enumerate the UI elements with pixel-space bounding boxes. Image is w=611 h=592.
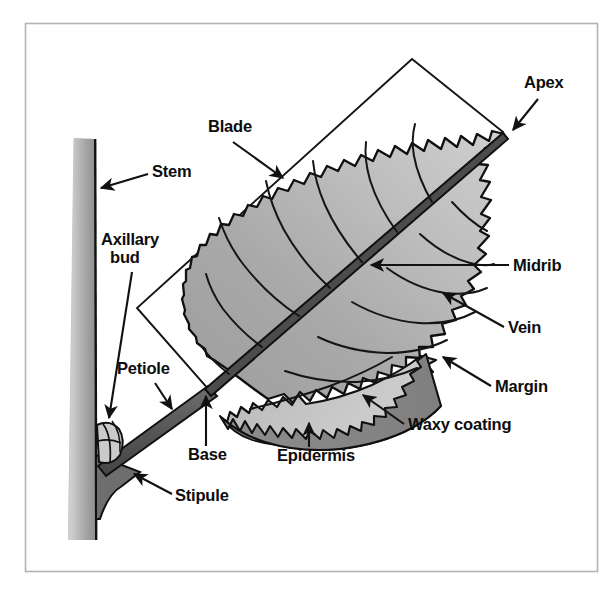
label-base: Base [188,445,227,463]
leaf-diagram-canvas: ApexBladeStemAxillarybudMidribVeinPetiol… [0,0,611,592]
label-margin: Margin [495,377,548,395]
label-petiole: Petiole [117,359,170,377]
label-axillary-bud-1: Axillary [101,230,160,248]
label-epidermis: Epidermis [277,446,355,464]
label-apex: Apex [524,73,565,91]
label-waxy-coating: Waxy coating [408,415,511,433]
label-axillary-bud-2: bud [110,248,140,266]
label-stem: Stem [152,162,192,180]
label-blade: Blade [208,117,252,135]
label-stipule: Stipule [175,486,229,504]
label-vein: Vein [508,318,541,336]
label-midrib: Midrib [513,256,561,274]
leaf-anatomy-diagram: ApexBladeStemAxillarybudMidribVeinPetiol… [0,0,611,592]
